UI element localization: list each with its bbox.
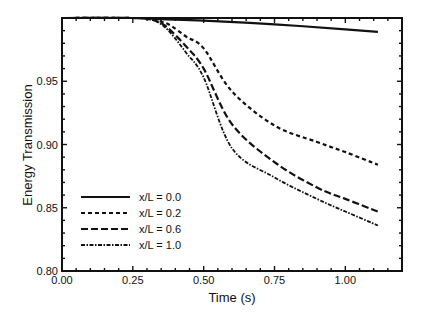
- legend: x/L = 0.0x/L = 0.2x/L = 0.6x/L = 1.0: [81, 191, 181, 251]
- legend-label: x/L = 1.0: [139, 239, 181, 251]
- plot-border: [62, 18, 402, 271]
- y-tick-label: 0.90: [37, 139, 58, 151]
- series-lines: [62, 18, 378, 226]
- energy-transmission-chart: 0.000.250.500.751.00 0.800.850.900.95 x/…: [0, 0, 422, 319]
- series-line-1: [62, 18, 378, 165]
- legend-label: x/L = 0.6: [139, 223, 181, 235]
- y-tick-label: 0.85: [37, 202, 58, 214]
- x-tick-label: 0.50: [193, 274, 214, 286]
- y-axis-title: Energy Transmission: [20, 84, 35, 205]
- series-line-2: [62, 18, 378, 212]
- legend-label: x/L = 0.2: [139, 207, 181, 219]
- x-tick-label: 0.25: [122, 274, 143, 286]
- y-axis-ticks: 0.800.850.900.95: [37, 18, 402, 277]
- legend-label: x/L = 0.0: [139, 191, 181, 203]
- y-tick-label: 0.80: [37, 265, 58, 277]
- x-tick-label: 0.75: [264, 274, 285, 286]
- x-axis-title: Time (s): [208, 290, 255, 305]
- x-tick-label: 1.00: [335, 274, 356, 286]
- y-tick-label: 0.95: [37, 75, 58, 87]
- plot-frame: [62, 18, 402, 271]
